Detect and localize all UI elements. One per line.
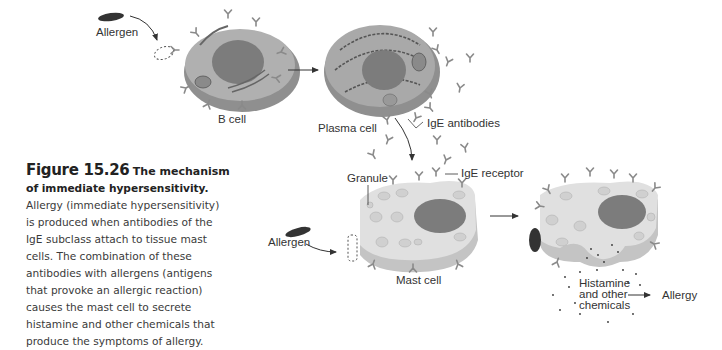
allergen-label-bottom: Allergen bbox=[268, 236, 310, 248]
figure-number: Figure 15.26 bbox=[26, 161, 129, 179]
allergen-label-top: Allergen bbox=[96, 26, 138, 38]
allergen-arrow bbox=[306, 244, 336, 252]
figure-title-2: immediate hypersensitivity. bbox=[42, 182, 209, 194]
plasma-cell-icon bbox=[324, 25, 440, 117]
allergen-icon bbox=[98, 11, 125, 23]
histamine-label: Histamine and other chemicals bbox=[579, 278, 630, 311]
figure-caption: Figure 15.26 The mechanism of immediate … bbox=[26, 162, 231, 350]
bound-allergen-icon bbox=[529, 228, 541, 252]
histamine-line-3: chemicals bbox=[579, 300, 630, 311]
plasma-cell-label: Plasma cell bbox=[318, 122, 377, 134]
degranulated-mast-cell-icon bbox=[529, 168, 660, 267]
b-cell-label: B cell bbox=[218, 113, 246, 125]
ige-receptor-label: IgE receptor bbox=[461, 167, 524, 179]
mast-cell-label: Mast cell bbox=[396, 274, 441, 286]
figure-body: Allergy (immediate hypersensitivity) is … bbox=[26, 199, 219, 347]
ige-antibodies-label: IgE antibodies bbox=[427, 117, 500, 129]
allergy-label: Allergy bbox=[662, 289, 697, 301]
b-cell-icon bbox=[171, 10, 300, 112]
granule-label: Granule bbox=[347, 172, 388, 184]
plasma-to-mast-arrow bbox=[395, 118, 412, 160]
